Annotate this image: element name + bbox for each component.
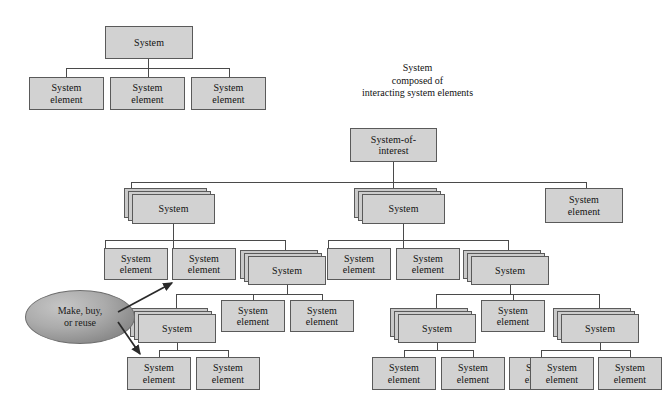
left-l4-system-element-box-2[interactable]: System element [290,300,354,332]
connector-right-l3-bus [328,240,508,241]
connector-right-l5-bus-b [541,350,630,351]
connector-right-l5-a2 [473,350,474,357]
connector-right-l5-b2 [630,350,631,357]
left-l5-system-element-box-1[interactable]: System element [127,357,191,390]
left-branch-system-box[interactable]: System [132,194,215,224]
upper-system-element-box-2[interactable]: System element [110,77,185,110]
connector-right-l4-bus [436,294,599,295]
connector-right-l4-sys2-down [600,343,601,350]
connector-upper-child2 [148,68,149,77]
right-l3-system-element-box-2[interactable]: System element [396,248,460,280]
connector-left-l3-c1 [105,240,106,248]
upper-system-element-box-1[interactable]: System element [29,77,104,110]
connector-left-l3-c2 [173,240,174,248]
diagram-canvas: System System element System element Sys… [0,0,668,404]
connector-left-l3-bus [105,240,285,241]
make-buy-reuse-callout[interactable]: Make, buy, or reuse [25,290,135,344]
right-l3-system-element-box-1[interactable]: System element [327,248,391,280]
left-l5-system-element-box-2[interactable]: System element [196,357,260,390]
connector-main-bus [131,182,586,183]
connector-mid-l2-down [403,224,404,240]
connector-root-down [393,162,394,182]
connector-left-l4-sys-down [177,343,178,350]
connector-right-l4-sys1-down [437,343,438,350]
left-l3-system-element-box-1[interactable]: System element [104,248,168,280]
connector-left-l2-down [173,224,174,240]
upper-system-element-box-3[interactable]: System element [191,77,266,110]
left-l4-system-element-box-1[interactable]: System element [221,300,285,332]
upper-root-system-box[interactable]: System [105,26,193,59]
right-l5-system-element-box-1[interactable]: System element [372,357,436,390]
system-of-interest-box[interactable]: System-of- interest [350,128,437,162]
connector-upper-child3 [229,68,230,77]
connector-left-l5-c1 [159,350,160,357]
connector-left-l3-sys-down [287,285,288,294]
connector-right-l5-b1 [541,350,542,357]
diagram-caption: System composed of interacting system el… [330,62,505,100]
connector-right-l3-sys-down [510,285,511,294]
right-l4-system-element-box[interactable]: System element [481,300,545,332]
right-l5-system-element-box-2[interactable]: System element [441,357,505,390]
right-l5-system-element-box-4[interactable]: System element [530,357,594,390]
connector-left-l4-bus [176,294,322,295]
right-l4-system-box-2[interactable]: System [561,314,639,343]
connector-right-l3-c2 [403,240,404,248]
connector-right-l3-c1 [328,240,329,248]
left-l3-system-element-box-2[interactable]: System element [172,248,236,280]
connector-upper-child1 [66,68,67,77]
right-l4-system-box-1[interactable]: System [398,314,476,343]
connector-left-l5-bus [159,350,229,351]
connector-right-l5-bus-a [404,350,473,351]
right-l3-system-box[interactable]: System [471,256,549,285]
connector-right-l5-a1 [404,350,405,357]
mid-branch-system-box[interactable]: System [362,194,445,224]
left-l4-system-box[interactable]: System [138,314,216,343]
left-l3-system-box[interactable]: System [248,256,326,285]
right-system-element-box[interactable]: System element [545,188,623,223]
right-l5-system-element-box-5[interactable]: System element [598,357,662,390]
connector-left-l5-c2 [228,350,229,357]
